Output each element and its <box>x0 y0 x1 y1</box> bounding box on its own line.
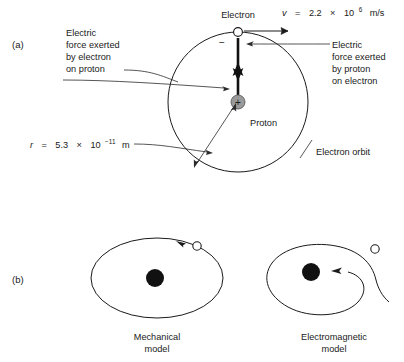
electron-charge-sign: − <box>219 37 225 48</box>
proton-label: Proton <box>250 118 277 128</box>
force-on-electron-label-line-2: force exerted <box>332 52 386 62</box>
electromagnetic-model-nucleus <box>302 263 320 281</box>
electron-label: Electron <box>221 10 255 20</box>
mechanical-model-electron <box>193 242 201 250</box>
force-on-electron-label-line-1: Electric <box>332 40 363 50</box>
electromagnetic-model-electron <box>371 245 379 253</box>
figure-canvas: (a) − Electron v = 2.2 × 10 6 m <box>0 0 404 362</box>
force-on-proton-label-line-1: Electric <box>66 28 97 38</box>
panel-a-label: (a) <box>12 39 24 50</box>
mechanical-model-nucleus <box>146 269 164 287</box>
force-on-proton-label-line-3: by electron <box>66 52 111 62</box>
mechanical-model-caption-line-1: Mechanical <box>134 332 180 342</box>
mechanical-model-caption-line-2: model <box>144 344 169 354</box>
force-on-proton-label-line-4: on proton <box>66 64 105 74</box>
electromagnetic-model-caption-line-2: model <box>321 344 346 354</box>
force-on-electron-label-line-3: by proton <box>332 64 370 74</box>
electron-orbit-label: Electron orbit <box>316 147 371 157</box>
electromagnetic-model-caption-line-1: Electromagnetic <box>301 332 367 342</box>
force-on-proton-label-line-2: force exerted <box>66 40 120 50</box>
panel-b-label: (b) <box>12 274 24 285</box>
force-on-electron-label-line-4: on electron <box>332 76 377 86</box>
electron-marker <box>234 28 243 37</box>
physics-figure-bohr-atom: (a) − Electron v = 2.2 × 10 6 m <box>0 0 404 362</box>
